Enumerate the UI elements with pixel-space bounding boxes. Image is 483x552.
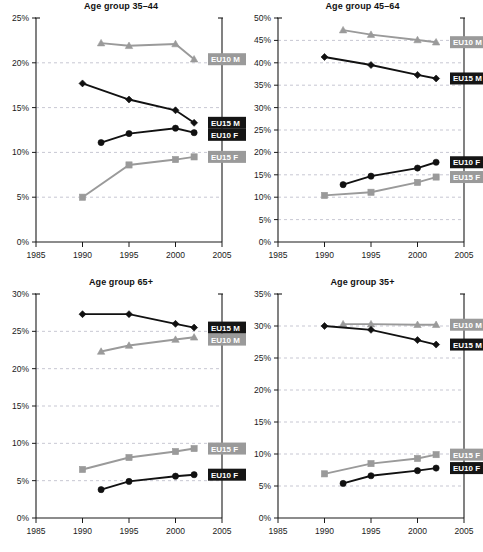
data-point-eu15-m xyxy=(414,71,421,78)
plot-area-3: 0%5%10%15%20%25%30%35%198519901995200020… xyxy=(242,276,483,552)
chart-svg: 0%5%10%15%20%25%19851990199520002005EU10… xyxy=(0,0,242,276)
y-tick-label: 15% xyxy=(254,170,271,180)
x-tick-label: 2000 xyxy=(408,526,427,536)
legend-label: EU15 M xyxy=(211,324,240,333)
data-point-eu10-f xyxy=(126,130,132,136)
chart-svg: 0%5%10%15%20%25%30%35%40%45%50%198519901… xyxy=(242,0,483,276)
plot-area-0: 0%5%10%15%20%25%19851990199520002005EU10… xyxy=(0,0,242,276)
legend-label: EU15 M xyxy=(453,74,482,83)
y-tick-label: 30% xyxy=(254,103,271,113)
series-line-eu10-f xyxy=(343,468,436,483)
legend-eu10-f: EU10 F xyxy=(208,129,246,141)
legend-label: EU15 F xyxy=(453,451,480,460)
y-tick-label: 20% xyxy=(254,385,271,395)
data-point-eu15-f xyxy=(126,162,132,168)
data-point-eu15-f xyxy=(79,466,85,472)
legend-eu10-f: EU10 F xyxy=(450,462,483,474)
data-point-eu15-f xyxy=(79,194,85,200)
chart-panel-1: Age group 45–64 0%5%10%15%20%25%30%35%40… xyxy=(242,0,483,276)
y-tick-label: 20% xyxy=(12,364,29,374)
x-tick-label: 1985 xyxy=(269,526,288,536)
y-tick-label: 5% xyxy=(259,215,272,225)
legend-eu10-f: EU10 F xyxy=(208,469,246,481)
y-tick-label: 25% xyxy=(12,326,29,336)
data-point-eu15-f xyxy=(433,174,439,180)
data-point-eu15-f xyxy=(321,192,327,198)
plot-area-2: 0%5%10%15%20%25%30%19851990199520002005E… xyxy=(0,276,242,552)
data-point-eu10-f xyxy=(340,182,346,188)
data-point-eu15-f xyxy=(368,461,374,467)
data-point-eu15-m xyxy=(368,326,375,333)
series-line-eu10-m xyxy=(101,43,194,59)
data-point-eu10-f xyxy=(98,487,104,493)
data-point-eu15-f xyxy=(191,445,197,451)
legend-eu10-m: EU10 M xyxy=(208,334,246,346)
series-line-eu15-m xyxy=(83,83,195,122)
data-point-eu15-m xyxy=(433,341,440,348)
legend-eu15-m: EU15 M xyxy=(450,339,483,351)
y-tick-label: 20% xyxy=(12,58,29,68)
legend-eu15-f: EU15 F xyxy=(450,449,483,461)
chart-panel-2: Age group 65+ 0%5%10%15%20%25%30%1985199… xyxy=(0,276,242,552)
data-point-eu10-f xyxy=(340,480,346,486)
legend-eu15-m: EU15 M xyxy=(208,322,246,334)
y-tick-label: 10% xyxy=(254,192,271,202)
legend-label: EU10 M xyxy=(453,321,482,330)
x-tick-label: 2005 xyxy=(213,526,232,536)
series-line-eu10-f xyxy=(101,475,194,490)
y-tick-label: 15% xyxy=(12,401,29,411)
y-tick-label: 30% xyxy=(12,289,29,299)
y-tick-label: 5% xyxy=(17,476,30,486)
data-point-eu15-m xyxy=(321,53,328,60)
y-tick-label: 40% xyxy=(254,58,271,68)
data-point-eu15-f xyxy=(368,189,374,195)
x-tick-label: 1985 xyxy=(27,526,46,536)
data-point-eu10-f xyxy=(433,159,439,165)
data-point-eu15-m xyxy=(321,323,328,330)
data-point-eu15-f xyxy=(126,454,132,460)
data-point-eu15-f xyxy=(172,156,178,162)
legend-label: EU15 F xyxy=(453,173,480,182)
data-point-eu10-f xyxy=(368,473,374,479)
x-tick-label: 1995 xyxy=(362,250,381,260)
data-point-eu15-f xyxy=(414,179,420,185)
legend-eu10-m: EU10 M xyxy=(450,36,483,48)
legend-label: EU10 F xyxy=(211,131,238,140)
legend-eu15-f: EU15 F xyxy=(208,151,246,163)
x-tick-label: 1990 xyxy=(73,526,92,536)
series-line-eu10-f xyxy=(101,128,194,142)
y-tick-label: 25% xyxy=(254,125,271,135)
chart-grid: Age group 35–44 0%5%10%15%20%25%19851990… xyxy=(0,0,483,552)
data-point-eu15-m xyxy=(172,320,179,327)
x-tick-label: 2005 xyxy=(455,526,474,536)
data-point-eu15-f xyxy=(172,448,178,454)
legend-label: EU15 M xyxy=(211,119,240,128)
legend-label: EU15 F xyxy=(211,445,238,454)
legend-eu15-f: EU15 F xyxy=(208,443,246,455)
data-point-eu10-f xyxy=(433,465,439,471)
x-tick-label: 2000 xyxy=(408,250,427,260)
x-tick-label: 2000 xyxy=(166,526,185,536)
y-tick-label: 0% xyxy=(17,513,30,523)
legend-eu10-f: EU10 F xyxy=(450,156,483,168)
legend-label: EU10 F xyxy=(453,464,480,473)
data-point-eu15-m xyxy=(126,96,133,103)
legend-label: EU10 M xyxy=(453,38,482,47)
legend-eu10-m: EU10 M xyxy=(208,53,246,65)
data-point-eu15-f xyxy=(433,452,439,458)
y-tick-label: 25% xyxy=(12,13,29,23)
chart-panel-0: Age group 35–44 0%5%10%15%20%25%19851990… xyxy=(0,0,242,276)
y-tick-label: 10% xyxy=(12,438,29,448)
chart-svg: 0%5%10%15%20%25%30%35%198519901995200020… xyxy=(242,276,483,552)
chart-panel-3: Age group 35+ 0%5%10%15%20%25%30%35%1985… xyxy=(242,276,483,552)
x-tick-label: 1990 xyxy=(315,250,334,260)
legend-label: EU10 F xyxy=(211,471,238,480)
data-point-eu15-f xyxy=(414,455,420,461)
y-tick-label: 5% xyxy=(259,481,272,491)
data-point-eu15-f xyxy=(321,471,327,477)
y-tick-label: 35% xyxy=(254,80,271,90)
y-tick-label: 25% xyxy=(254,353,271,363)
data-point-eu10-f xyxy=(191,472,197,478)
data-point-eu10-f xyxy=(191,130,197,136)
series-line-eu10-m xyxy=(101,337,194,351)
